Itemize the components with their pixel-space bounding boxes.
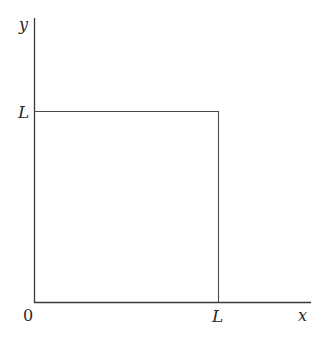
diagram-canvas: y L 0 L x (0, 0, 327, 340)
x-axis-label: x (298, 306, 307, 325)
y-side-length-label: L (17, 102, 29, 122)
origin-label: 0 (23, 306, 33, 325)
y-axis-label: y (18, 15, 29, 34)
x-side-length-label: L (211, 306, 223, 326)
